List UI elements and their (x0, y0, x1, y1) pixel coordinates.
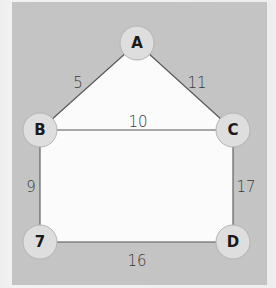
node-c-label: C (227, 121, 238, 139)
weight-c-d: 17 (236, 178, 255, 196)
weight-b-7: 9 (26, 178, 36, 196)
node-b: B (23, 113, 57, 147)
node-a-label: A (131, 34, 143, 52)
node-d: D (216, 225, 250, 259)
node-c: C (216, 113, 250, 147)
weight-b-c: 10 (128, 113, 147, 131)
weight-a-b: 5 (73, 74, 83, 92)
node-7-label: 7 (35, 233, 45, 251)
node-b-label: B (34, 121, 45, 139)
weighted-graph: 5 11 10 9 17 16 A B C 7 D (0, 0, 276, 288)
graph-inner-face (40, 43, 233, 242)
node-d-label: D (227, 233, 239, 251)
node-a: A (120, 26, 154, 60)
weight-7-d: 16 (127, 252, 146, 270)
weight-a-c: 11 (187, 74, 206, 92)
node-7: 7 (23, 225, 57, 259)
